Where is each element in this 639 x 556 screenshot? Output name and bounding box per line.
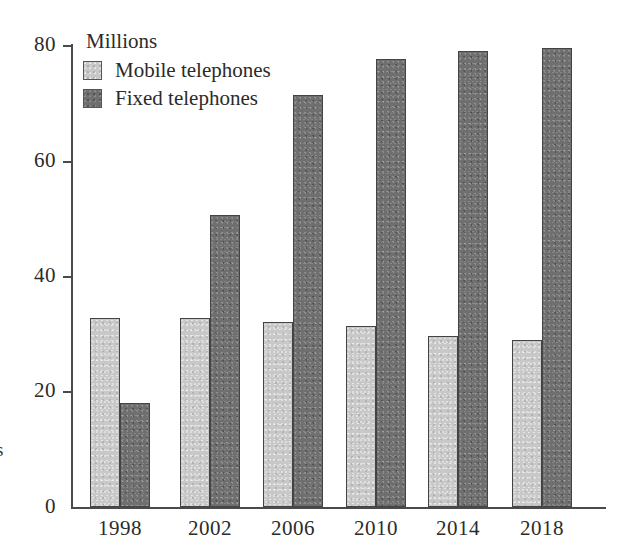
bar-2010-fixed [376,59,406,507]
x-tick-label-2006: 2006 [248,516,338,540]
y-tick-mark [63,276,72,278]
y-axis-title: Millions [86,30,157,52]
x-tick-label-2002: 2002 [165,516,255,540]
bar-1998-fixed [120,403,150,507]
y-tick-0: 0 [0,507,72,509]
y-tick-label: 60 [0,150,56,171]
y-tick-mark [63,161,72,163]
x-tick-label-2014: 2014 [413,516,503,540]
y-tick-label: 80 [0,34,56,55]
legend-label-fixed: Fixed telephones [115,87,258,109]
legend-item-fixed: Fixed telephones [83,84,271,112]
x-tick-label-2010: 2010 [331,516,421,540]
y-tick-mark [63,391,72,393]
bar-2018-mobile [512,340,542,507]
clipped-margin-text: s [0,440,8,460]
x-axis-line [71,507,606,509]
y-tick-mark [63,45,72,47]
legend: Mobile telephones Fixed telephones [83,56,271,112]
y-tick-label: 20 [0,380,56,401]
y-tick-20: 20 [0,391,72,393]
bar-1998-mobile [90,318,120,507]
bar-2010-mobile [346,326,376,507]
y-tick-60: 60 [0,161,72,163]
x-tick-label-1998: 1998 [75,516,165,540]
bar-2014-mobile [428,336,458,507]
bar-2002-fixed [210,215,240,507]
bar-2006-fixed [293,95,323,507]
bar-2006-mobile [263,322,293,507]
plot-area: 80 60 40 20 0 Millions Mobile telephones [0,0,639,556]
y-tick-label: 40 [0,265,56,286]
bar-2018-fixed [542,48,572,507]
y-tick-label: 0 [0,496,56,517]
legend-label-mobile: Mobile telephones [115,59,271,81]
bar-2002-mobile [180,318,210,507]
legend-item-mobile: Mobile telephones [83,56,271,84]
y-tick-40: 40 [0,276,72,278]
legend-swatch-fixed-icon [83,89,102,108]
legend-swatch-mobile-icon [83,61,102,80]
bar-2014-fixed [458,51,488,507]
x-tick-label-2018: 2018 [497,516,587,540]
y-tick-80: 80 [0,45,72,47]
bar-chart: 80 60 40 20 0 Millions Mobile telephones [0,0,639,556]
